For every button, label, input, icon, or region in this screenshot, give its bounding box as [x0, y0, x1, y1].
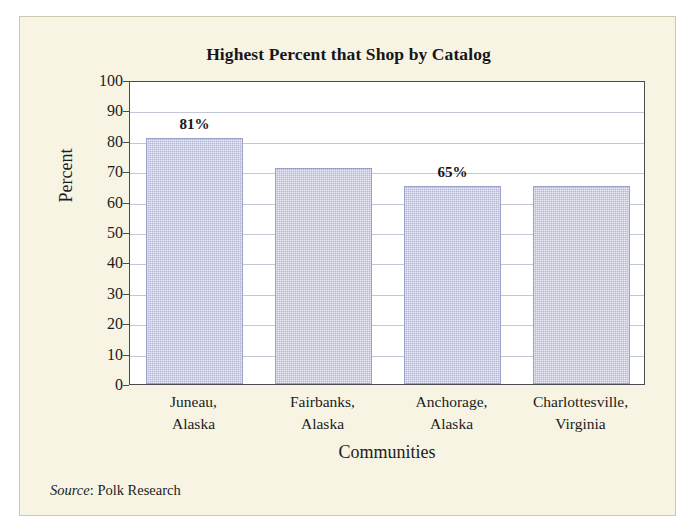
bar-value-label: 81% — [146, 116, 242, 133]
y-axis-title: Percent — [56, 86, 77, 266]
bar[interactable] — [533, 186, 629, 384]
y-tick-label: 90 — [83, 103, 123, 119]
y-tick-label: 40 — [83, 255, 123, 271]
plot-area: 81%65% — [129, 81, 645, 385]
bars-layer: 81%65% — [130, 82, 644, 384]
bar[interactable] — [275, 168, 371, 384]
x-axis-title: Communities — [129, 442, 645, 463]
bar-value-label: 65% — [404, 164, 500, 181]
x-category-label-line: Charlottesville, — [504, 391, 657, 413]
y-tick-label: 50 — [83, 225, 123, 241]
bar[interactable] — [404, 186, 500, 384]
y-tick-label: 60 — [83, 195, 123, 211]
y-tick-label: 20 — [83, 316, 123, 332]
y-tick-label: 80 — [83, 134, 123, 150]
chart-title: Highest Percent that Shop by Catalog — [20, 44, 677, 65]
y-tick-mark — [123, 385, 129, 386]
source-value: : Polk Research — [90, 482, 181, 498]
x-axis-category-labels: Juneau,AlaskaFairbanks,AlaskaAnchorage,A… — [129, 391, 645, 441]
y-tick-label: 10 — [83, 347, 123, 363]
bar[interactable] — [146, 138, 242, 384]
y-tick-label: 70 — [83, 164, 123, 180]
x-category-label: Charlottesville,Virginia — [504, 391, 657, 435]
y-tick-label: 100 — [83, 73, 123, 89]
y-axis-tick-labels: 1009080706050403020100 — [77, 81, 123, 385]
figure-panel: Highest Percent that Shop by Catalog Per… — [19, 16, 676, 516]
source-note: Source: Polk Research — [50, 482, 181, 499]
source-label: Source — [50, 482, 90, 498]
x-category-label-line: Virginia — [504, 413, 657, 435]
y-tick-label: 30 — [83, 286, 123, 302]
